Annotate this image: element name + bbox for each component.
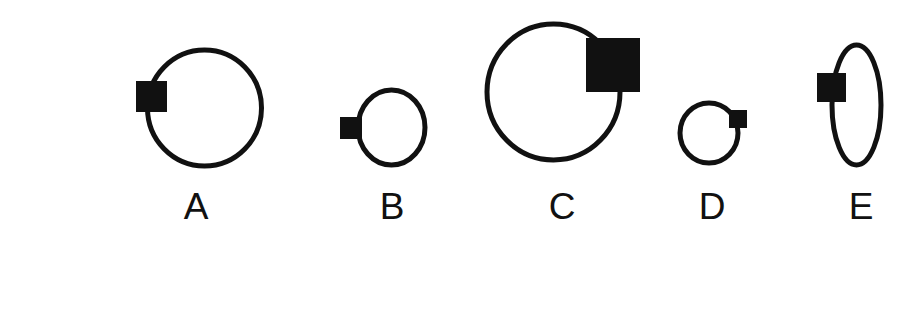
shape-square-b — [340, 117, 362, 139]
shape-outline-b — [358, 90, 425, 165]
worksheet-page: A B C D E Answer — [0, 0, 903, 332]
shape-label-b: B — [362, 186, 422, 228]
shape-label-c: C — [532, 186, 592, 228]
shape-square-c — [586, 38, 640, 92]
shape-diagram — [0, 0, 903, 185]
shape-label-a: A — [166, 186, 226, 228]
answer-area: Answer — [0, 255, 903, 332]
shape-figures-row — [0, 0, 903, 185]
shape-square-a — [136, 81, 167, 112]
shape-square-d — [729, 110, 747, 128]
shapes-group — [136, 24, 881, 166]
shape-label-d: D — [682, 186, 742, 228]
shape-outline-e — [832, 45, 881, 165]
shape-labels-row: A B C D E — [0, 186, 903, 234]
shape-square-e — [817, 73, 846, 102]
shape-label-e: E — [831, 186, 891, 228]
